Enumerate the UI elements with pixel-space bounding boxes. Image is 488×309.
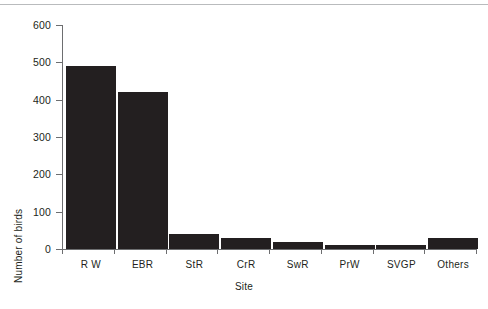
bar-swr <box>273 242 323 249</box>
x-axis-category-label: Others <box>408 259 488 271</box>
x-axis-tick <box>321 249 322 254</box>
x-axis-tick <box>166 249 167 254</box>
bar-svgp <box>376 245 426 249</box>
bar-prw <box>325 245 375 249</box>
x-axis-tick <box>269 249 270 254</box>
y-axis-tick-label: 300 <box>33 132 51 143</box>
bar-str <box>169 234 219 249</box>
x-axis-tick <box>424 249 425 254</box>
bar-ebr <box>118 92 168 249</box>
y-axis-tick-label: 0 <box>45 244 51 255</box>
bars-group <box>62 25 476 249</box>
x-axis-title: Site <box>0 281 488 292</box>
top-divider-rule <box>0 4 488 5</box>
bar-crr <box>221 238 271 249</box>
x-axis-tick <box>114 249 115 254</box>
y-axis-tick-label: 500 <box>33 57 51 68</box>
y-axis-tick-label: 400 <box>33 95 51 106</box>
y-axis-tick-label: 600 <box>33 20 51 31</box>
y-axis-tick-label: 200 <box>33 169 51 180</box>
x-axis-tick-origin <box>62 249 63 254</box>
bar-r-w <box>66 66 116 249</box>
x-axis-tick <box>373 249 374 254</box>
bar-others <box>428 238 478 249</box>
x-axis-tick <box>476 249 477 254</box>
bar-chart-figure: Number of birds 0100200300400500600 R WE… <box>0 0 488 309</box>
y-axis-tick-label: 100 <box>33 207 51 218</box>
x-axis-tick <box>217 249 218 254</box>
